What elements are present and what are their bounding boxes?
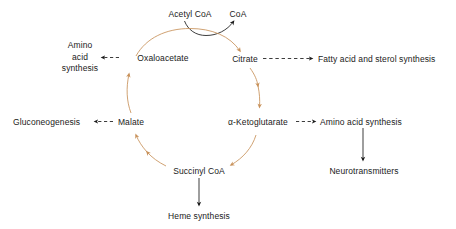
amino-acid-synthesis-line-1: Amino [57,40,103,52]
amino-acid-synthesis-line-2: acid [57,52,103,64]
output-amino-acid-synthesis-left: Amino acid synthesis [57,40,103,75]
krebs-cycle-diagram: Acetyl CoA CoA Oxaloacetate Citrate Mala… [0,0,456,229]
node-acetyl-coa: Acetyl CoA [168,9,211,20]
node-oxaloacetate: Oxaloacetate [137,53,188,64]
node-succinyl-coa: Succinyl CoA [173,166,225,177]
output-amino-acid-synthesis-right: Amino acid synthesis [320,117,402,128]
amino-acid-synthesis-line-3: synthesis [57,63,103,75]
arrow-oxaloacetate-to-citrate [136,29,240,57]
arrow-citrate-to-ketoglutarate-lower [258,86,260,107]
output-neurotransmitters: Neurotransmitters [329,166,398,177]
node-malate: Malate [118,117,144,128]
output-fatty-acid-and-sterol-synthesis: Fatty acid and sterol synthesis [318,54,435,65]
node-alpha-ketoglutarate: α-Ketoglutarate [228,117,288,128]
arrow-succinyl-coa-to-malate-lower [147,152,166,166]
diagram-arrows-layer [0,0,456,229]
node-coa: CoA [230,9,247,20]
arrow-citrate-to-ketoglutarate-upper [250,68,258,86]
arrow-acetyl-coa-to-coa [185,21,234,36]
arrow-ketoglutarate-to-succinyl-coa [231,135,256,165]
output-gluconeogenesis: Gluconeogenesis [13,117,80,128]
node-citrate: Citrate [232,54,258,65]
arrow-malate-to-oxaloacetate [127,74,131,113]
output-heme-synthesis: Heme synthesis [168,211,230,222]
arrow-succinyl-coa-to-malate-upper [136,135,147,152]
